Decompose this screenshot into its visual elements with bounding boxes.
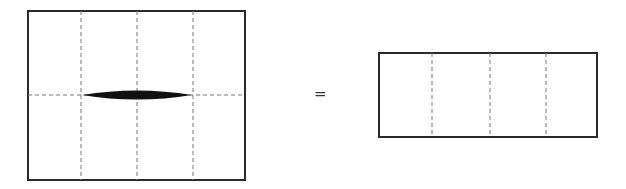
left-panel <box>28 11 245 180</box>
diagram-canvas <box>0 0 626 189</box>
lens-shape <box>82 91 192 100</box>
right-panel <box>379 53 597 137</box>
right-frame <box>379 53 597 137</box>
right-vertical-dashed-lines <box>432 53 546 137</box>
equals-sign: = <box>314 85 327 103</box>
